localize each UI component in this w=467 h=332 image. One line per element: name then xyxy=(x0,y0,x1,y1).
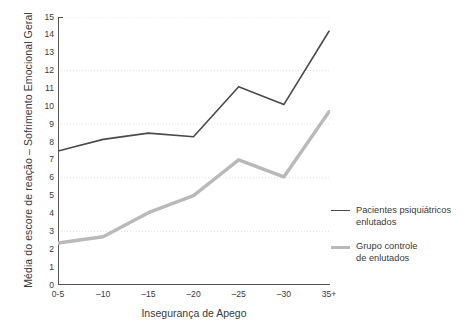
plot-svg xyxy=(58,17,330,285)
chart-container: Média do escore de reação – Sofrimento E… xyxy=(0,0,467,332)
axis-lines xyxy=(58,17,330,285)
gridlines xyxy=(58,17,330,231)
legend-label-line-1: Grupo controle xyxy=(356,241,467,253)
legend-swatch-icon xyxy=(331,210,350,211)
legend-label: Pacientes psiquiátricosenlutados xyxy=(356,205,467,228)
y-tick-label: 6 xyxy=(32,173,54,182)
legend-label-line-2: de enlutados xyxy=(356,253,467,265)
legend-swatch-icon xyxy=(331,246,350,249)
y-tick-label: 8 xyxy=(32,138,54,147)
y-tick-label: 1 xyxy=(32,263,54,272)
y-tick-label: 14 xyxy=(32,30,54,39)
y-tick-label: 10 xyxy=(32,102,54,111)
y-tick-label: 5 xyxy=(32,191,54,200)
legend-entry: Grupo controlede enlutados xyxy=(331,241,467,264)
legend-entry: Pacientes psiquiátricosenlutados xyxy=(331,205,467,228)
x-tick-label: –15 xyxy=(126,289,170,300)
plot-area xyxy=(58,17,330,285)
y-tick-label: 9 xyxy=(32,120,54,129)
y-tick-label: 15 xyxy=(32,13,54,22)
x-tick-label: 0-5 xyxy=(36,289,80,300)
x-tick-label: –30 xyxy=(262,289,306,300)
x-tick-label: –10 xyxy=(81,289,125,300)
y-tick-label: 13 xyxy=(32,48,54,57)
y-tick-label: 12 xyxy=(32,66,54,75)
legend-label-line-1: Pacientes psiquiátricos xyxy=(356,205,467,217)
y-tick-label: 7 xyxy=(32,155,54,164)
y-tick-label: 3 xyxy=(32,227,54,236)
legend-label-line-2: enlutados xyxy=(356,217,467,229)
y-tick-label: 4 xyxy=(32,209,54,218)
x-tick-label: –20 xyxy=(172,289,216,300)
series-lines xyxy=(58,31,329,243)
legend-label: Grupo controlede enlutados xyxy=(356,241,467,264)
y-tick-label: 2 xyxy=(32,245,54,254)
x-axis-title: Insegurança de Apego xyxy=(58,307,330,319)
chart-legend: Pacientes psiquiátricosenlutadosGrupo co… xyxy=(331,205,467,277)
x-axis-tick-labels: 0-5–10–15–20–25–3035+ xyxy=(58,289,330,303)
y-axis-tick-labels: 0123456789101112131415 xyxy=(30,17,54,285)
x-tick-label: 35+ xyxy=(307,289,351,300)
x-tick-label: –25 xyxy=(217,289,261,300)
series-line-1 xyxy=(58,31,329,151)
y-tick-label: 11 xyxy=(32,84,54,93)
